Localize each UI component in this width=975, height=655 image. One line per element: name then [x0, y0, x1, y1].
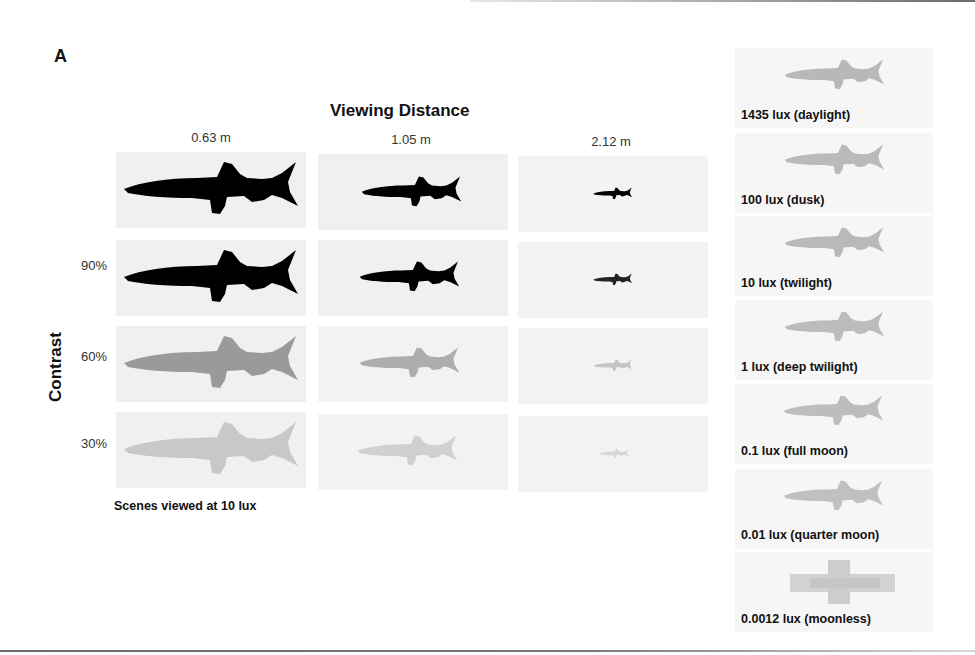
fish-silhouette-icon: [356, 432, 460, 472]
light-condition-label: 10 lux (twilight): [741, 276, 832, 290]
fish-silhouette-icon: [596, 448, 632, 460]
column-label-2: 2.12 m: [516, 134, 706, 149]
row-label-30: 30%: [57, 436, 107, 451]
fish-silhouette-icon: [122, 330, 302, 400]
scene-cell: [518, 416, 708, 492]
light-condition-label: 0.0012 lux (moonless): [741, 612, 871, 626]
bottom-rule: [0, 650, 975, 652]
fish-silhouette-icon: [122, 156, 302, 226]
column-label-1: 1.05 m: [316, 132, 506, 147]
contrast-axis-label: Contrast: [46, 332, 66, 402]
scene-cell: [518, 328, 708, 404]
scene-cell: [518, 242, 708, 318]
light-condition-label: 1 lux (deep twilight): [741, 360, 858, 374]
fish-silhouette-icon: [780, 224, 890, 264]
fish-silhouette-icon: [593, 272, 633, 288]
scene-cell: [318, 414, 508, 490]
fish-silhouette-icon: [780, 308, 890, 348]
scene-cell: [116, 152, 306, 228]
fish-silhouette-icon: [780, 56, 890, 96]
scene-cell: [116, 412, 306, 488]
fish-silhouette-icon: [358, 258, 462, 298]
light-condition-label: 100 lux (dusk): [741, 193, 824, 207]
viewing-distance-title: Viewing Distance: [330, 101, 470, 121]
scene-cell: [116, 326, 306, 402]
row-label-60: 60%: [57, 349, 107, 364]
light-condition-label: 1435 lux (daylight): [741, 108, 850, 122]
fish-silhouette-icon: [358, 344, 462, 384]
fish-silhouette-icon: [780, 392, 888, 432]
scene-cell: [318, 240, 508, 316]
light-condition-label: 0.01 lux (quarter moon): [741, 528, 879, 542]
row-label-90: 90%: [57, 258, 107, 273]
fish-silhouette-icon: [122, 244, 302, 314]
scene-cell: [318, 326, 508, 402]
panel-a-caption: Scenes viewed at 10 lux: [114, 499, 256, 513]
scene-cell: [116, 240, 306, 316]
fish-silhouette-icon: [593, 186, 633, 202]
panel-a-label: A: [54, 46, 67, 67]
fish-silhouette-icon: [360, 173, 464, 213]
fish-silhouette-icon: [122, 416, 302, 486]
scene-cell: [318, 154, 508, 230]
pixelated-fish-core: [810, 578, 880, 588]
top-rule: [470, 0, 975, 2]
fish-silhouette-icon: [780, 477, 888, 517]
column-label-0: 0.63 m: [116, 130, 306, 145]
fish-silhouette-icon: [593, 358, 633, 374]
scene-cell: [518, 156, 708, 232]
light-condition-label: 0.1 lux (full moon): [741, 444, 848, 458]
fish-silhouette-icon: [780, 141, 890, 181]
